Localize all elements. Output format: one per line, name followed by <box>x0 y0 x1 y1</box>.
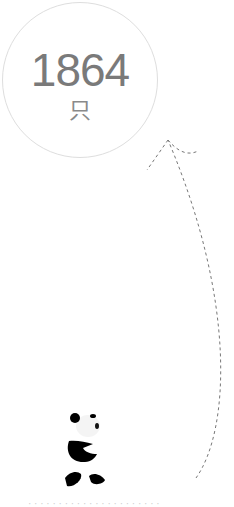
footer-text: · · · · · · · · · · · · · · · · · · · · … <box>28 500 224 507</box>
dashed-arrow-path-icon <box>0 0 234 507</box>
panda-icon <box>55 408 111 490</box>
